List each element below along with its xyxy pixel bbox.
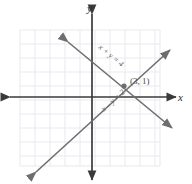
x-axis-label: x: [177, 91, 183, 103]
intersection-point-label: (3, 1): [130, 76, 150, 86]
grid-lines: [20, 30, 160, 166]
y-axis-label: y: [86, 2, 92, 14]
intersection-point-marker: [121, 83, 126, 88]
coordinate-graph: x + y = 4 x – y = 2 (3, 1) x y: [0, 0, 192, 184]
graph-canvas: x + y = 4 x – y = 2 (3, 1) x y: [0, 0, 192, 184]
